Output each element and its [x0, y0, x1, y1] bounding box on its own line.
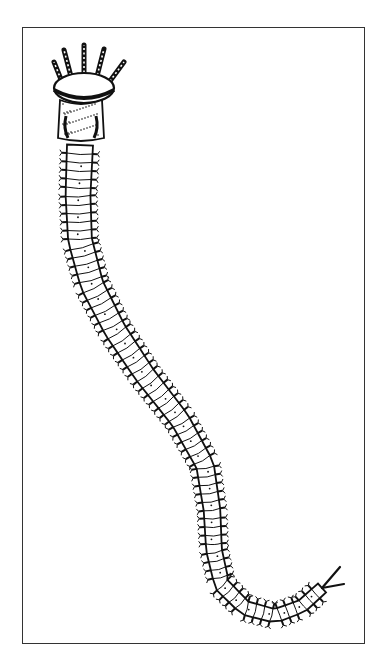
worm-head [54, 73, 114, 141]
worm-tail-cirri [322, 567, 344, 588]
worm-body [59, 144, 327, 629]
worm-illustration [0, 0, 386, 671]
